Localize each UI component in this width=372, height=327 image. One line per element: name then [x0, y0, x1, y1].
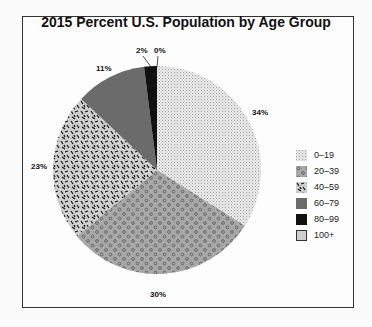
label-0-19: 34%: [252, 108, 268, 117]
leader-line-80-99: [143, 56, 151, 67]
label-100: 0%: [154, 46, 166, 55]
legend-swatch-0-19: [296, 150, 307, 161]
legend-swatch-60-79: [296, 198, 307, 209]
legend-item-80-99: 80–99: [296, 211, 339, 227]
legend-swatch-80-99: [296, 214, 307, 225]
label-20-39: 30%: [150, 290, 166, 299]
legend-item-100: 100+: [296, 227, 339, 243]
legend-item-0-19: 0–19: [296, 147, 339, 163]
chart-legend: 0–19 20–39 40–59 60–79 80–99 100+: [296, 147, 339, 243]
legend-swatch-40-59: [296, 182, 307, 193]
leader-line-100: [157, 56, 158, 67]
legend-item-20-39: 20–39: [296, 163, 339, 179]
label-60-79: 11%: [96, 64, 112, 73]
legend-swatch-20-39: [296, 166, 307, 177]
label-80-99: 2%: [136, 46, 148, 55]
legend-item-60-79: 60–79: [296, 195, 339, 211]
legend-item-40-59: 40–59: [296, 179, 339, 195]
label-40-59: 23%: [31, 162, 47, 171]
legend-swatch-100: [296, 230, 307, 241]
